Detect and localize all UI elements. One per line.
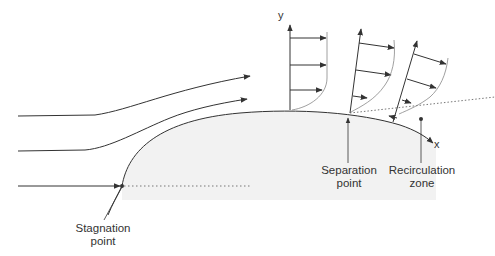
profile2-envelope [351,40,395,112]
profile3-arrow-top [414,54,446,64]
profile3-envelope [399,58,448,114]
streamline-upper [18,76,250,116]
recirculation-label-line1: Recirculation [387,164,457,177]
profile3-arrow-mid [407,79,436,88]
stagnation-label-line2: point [72,235,134,248]
recirculation-zone-label: Recirculation zone [387,164,457,190]
stagnation-point-label: Stagnation point [72,222,134,248]
recirculation-dot [419,117,423,121]
stagnation-leader [104,187,122,220]
profile2-arrow-mid [356,70,391,75]
profile1-envelope [292,32,327,110]
stagnation-label-line1: Stagnation [72,222,134,235]
flow-diagram [0,0,495,256]
profile2-arrow-low [353,96,367,98]
profile3-arrow-low [402,100,411,103]
recirculation-label-line2: zone [387,177,457,190]
separation-label-line1: Separation [316,164,382,177]
separation-label-line2: point [316,177,382,190]
streamline-upper-continuation [250,71,279,76]
separation-point-label: Separation point [316,164,382,190]
x-axis-label: x [434,138,440,150]
y-axis-label: y [278,9,284,21]
profile3-arrow-reverse [389,116,397,118]
profile2-arrow-top [359,43,394,48]
profile2-axis [350,29,361,113]
